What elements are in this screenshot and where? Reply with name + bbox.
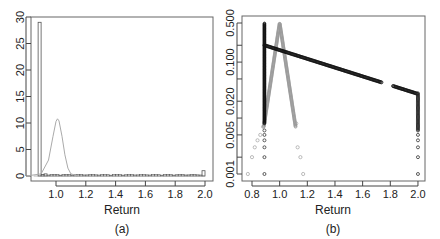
y-tick-label: 20 — [14, 64, 26, 76]
data-point — [259, 133, 262, 136]
data-point — [299, 156, 302, 159]
panel-a-histogram: 051015202530 1.01.21.41.61.82.0 Return (… — [14, 11, 213, 236]
data-point — [416, 156, 419, 159]
panel-caption-a: (a) — [115, 222, 130, 236]
x-tick-label: 1.8 — [383, 188, 398, 200]
x-tick-label: 1.2 — [300, 188, 315, 200]
x-tick-label: 0.8 — [244, 188, 259, 200]
y-tick-label: 0.020 — [224, 87, 236, 115]
y-axis-b: 0.0010.0050.0200.1000.500 — [224, 9, 242, 188]
data-point — [416, 146, 419, 149]
histogram-bar — [202, 171, 205, 176]
x-axis-title-b: Return — [315, 203, 351, 217]
x-axis-title-a: Return — [104, 203, 140, 217]
histogram-bars — [34, 22, 205, 176]
y-tick-label: 0.001 — [224, 160, 236, 188]
y-tick-label: 0.100 — [224, 48, 236, 76]
y-tick-label: 0 — [14, 173, 26, 179]
density-curve — [26, 119, 78, 176]
x-tick-label: 1.0 — [272, 188, 287, 200]
y-axis-a: 051015202530 — [14, 11, 31, 179]
y-tick-label: 5 — [14, 146, 26, 152]
y-tick-label: 25 — [14, 37, 26, 49]
x-axis-a: 1.01.21.41.61.82.0 — [48, 181, 212, 200]
plot-frame-a — [31, 17, 213, 181]
histogram-bar — [44, 174, 47, 176]
data-point — [263, 139, 266, 142]
x-tick-label: 2.0 — [197, 188, 212, 200]
x-tick-label: 2.0 — [410, 188, 425, 200]
x-tick-label: 1.4 — [327, 188, 342, 200]
y-tick-label: 15 — [14, 90, 26, 102]
data-point — [263, 156, 266, 159]
gray-series-points — [246, 22, 305, 175]
data-point — [253, 146, 256, 149]
y-tick-label: 0.500 — [224, 9, 236, 37]
black-series-points — [263, 22, 420, 175]
x-tick-label: 1.4 — [108, 188, 123, 200]
x-tick-label: 1.6 — [138, 188, 153, 200]
y-tick-label: 0.005 — [224, 121, 236, 149]
histogram-bar — [38, 22, 41, 176]
panel-b-scatter: 0.0010.0050.0200.1000.500 0.81.01.21.41.… — [224, 9, 426, 236]
data-point — [302, 172, 305, 175]
x-tick-label: 1.6 — [355, 188, 370, 200]
data-point — [296, 146, 299, 149]
data-point — [416, 133, 419, 136]
data-point — [263, 129, 266, 132]
x-axis-b: 0.81.01.21.41.61.82.0 — [244, 181, 425, 200]
x-tick-label: 1.8 — [168, 188, 183, 200]
y-tick-label: 10 — [14, 117, 26, 129]
x-tick-label: 1.2 — [78, 188, 93, 200]
data-point — [416, 139, 419, 142]
y-tick-label: 30 — [14, 11, 26, 23]
data-point — [263, 146, 266, 149]
figure: 051015202530 1.01.21.41.61.82.0 Return (… — [0, 0, 440, 239]
data-point — [250, 156, 253, 159]
data-point — [263, 173, 266, 176]
data-point — [416, 173, 419, 176]
panel-caption-b: (b) — [326, 222, 341, 236]
x-tick-label: 1.0 — [48, 188, 63, 200]
data-point — [256, 139, 259, 142]
data-point — [246, 172, 249, 175]
data-point — [263, 133, 266, 136]
